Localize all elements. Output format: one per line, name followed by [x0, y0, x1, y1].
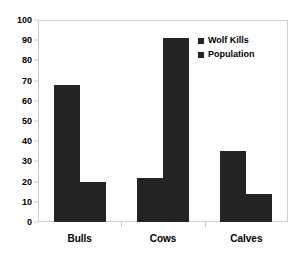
legend-label: Wolf Kills: [208, 36, 249, 45]
bar: [137, 178, 163, 222]
y-axis-tick-label: 20: [22, 177, 32, 187]
x-axis-tick-label: Bulls: [67, 233, 91, 244]
chart-legend: Wolf KillsPopulation: [198, 36, 255, 59]
legend-swatch-icon: [198, 38, 204, 44]
y-axis-tick-label: 30: [22, 156, 32, 166]
y-axis: 0102030405060708090100: [0, 20, 38, 222]
y-axis-tick-label: 10: [22, 197, 32, 207]
bar: [246, 194, 272, 222]
x-axis-tick-label: Cows: [150, 233, 177, 244]
bar: [54, 85, 80, 222]
legend-entry: Population: [198, 50, 255, 59]
bar-group: [137, 20, 189, 222]
y-axis-tick-label: 40: [22, 136, 32, 146]
legend-entry: Wolf Kills: [198, 36, 255, 45]
bar: [163, 38, 189, 222]
y-axis-tick-label: 50: [22, 116, 32, 126]
legend-label: Population: [208, 50, 255, 59]
bar: [220, 151, 246, 222]
x-axis: BullsCowsCalves: [38, 222, 288, 260]
bar-chart-figure: 0102030405060708090100 BullsCowsCalves W…: [0, 0, 305, 260]
bar: [80, 182, 106, 222]
y-axis-tick-label: 90: [22, 35, 32, 45]
x-axis-tick-mark: [205, 222, 206, 227]
bar-group: [54, 20, 106, 222]
x-axis-tick-mark: [121, 222, 122, 227]
y-axis-tick-label: 80: [22, 55, 32, 65]
y-axis-tick-label: 100: [17, 15, 32, 25]
y-axis-tick-label: 60: [22, 96, 32, 106]
x-axis-tick-label: Calves: [230, 233, 262, 244]
legend-swatch-icon: [198, 52, 204, 58]
y-axis-tick-label: 0: [27, 217, 32, 227]
y-axis-tick-label: 70: [22, 76, 32, 86]
